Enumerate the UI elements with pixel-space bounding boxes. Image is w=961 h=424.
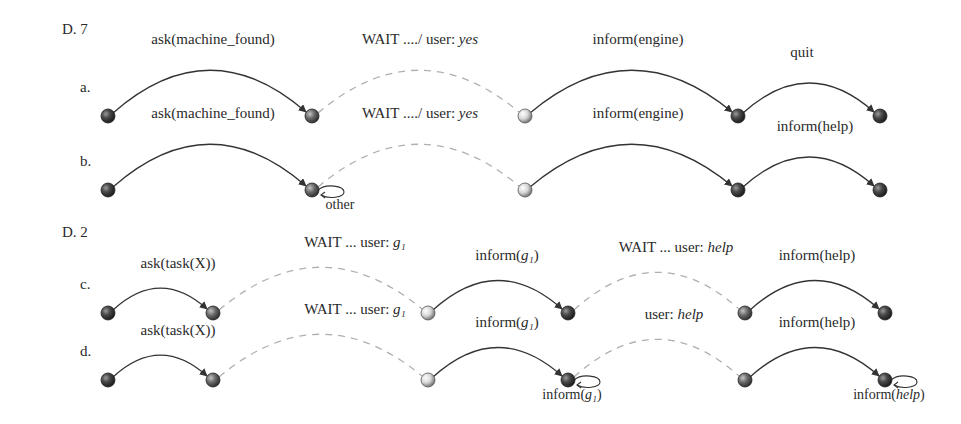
state-node [101,183,115,197]
self-loop-label-math: help [896,387,920,402]
dialogue-state-diagram [0,0,961,424]
state-node [561,373,575,387]
edge-label-tail: ) [534,247,539,263]
edge-label-math: g₁ [521,314,534,330]
transition-arrow [530,144,732,187]
state-node [561,306,575,320]
edge-label: WAIT ... user: g₁ [304,302,406,317]
edge-label-math: g₁ [521,247,534,263]
state-node [873,183,887,197]
edge-label: ask(machine_found) [151,32,274,47]
edge-label: WAIT ..../ user: yes [362,106,478,121]
state-node [101,373,115,387]
edge-label: inform(g₁) [475,315,539,330]
edge-label: inform(help) [779,248,856,263]
state-node [421,306,435,320]
edge-label: WAIT ..../ user: yes [362,32,478,47]
edge-label-text: inform( [475,247,521,263]
edge-label-text: WAIT ..../ user: [362,105,459,121]
edge-label-math: help [678,306,704,322]
edge-label: inform(engine) [593,106,684,121]
self-loop-label: inform(g₁) [542,388,601,402]
state-node [873,109,887,123]
edge-label: inform(engine) [593,32,684,47]
state-node [731,109,745,123]
edge-label-math: yes [459,105,478,121]
transition-arrow [113,355,207,377]
state-node [731,183,745,197]
edge-label-text: WAIT ..../ user: [362,31,459,47]
edge-label: WAIT ... user: help [619,240,734,255]
section-title: D. 7 [62,22,88,37]
edge-label: quit [790,45,813,60]
edge-label: inform(help) [777,119,854,134]
state-node [101,306,115,320]
state-node [206,373,220,387]
state-node [518,109,532,123]
transition-arrow [750,280,879,310]
edge-label-math: g₁ [393,301,406,317]
transition-arrow [113,288,207,310]
self-loop-label: inform(help) [853,388,925,402]
row-label: c. [80,277,90,292]
edge-label-math: help [708,239,734,255]
wait-dashed-arc [574,272,739,310]
wait-dashed-arc [574,339,739,377]
row-label: b. [80,154,91,169]
state-node [738,373,752,387]
self-loop-label-text: inform( [542,387,585,402]
edge-label-math: yes [459,31,478,47]
edge-label: user: help [645,307,704,322]
self-loop-label-tail: ) [597,387,602,402]
state-node [421,373,435,387]
self-loop-label-math: g₁ [585,387,597,402]
edge-label-text: WAIT ... user: [619,239,708,255]
state-node [101,109,115,123]
wait-dashed-arc [219,334,422,377]
edge-label-text: inform( [475,314,521,330]
self-loop-label: other [326,198,355,212]
edge-label: WAIT ... user: g₁ [304,235,406,250]
wait-dashed-arc [318,144,519,187]
self-loop-arrowhead-icon [321,192,325,198]
transition-arrow [743,157,874,187]
state-node [878,306,892,320]
transition-arrow [743,83,874,113]
edge-label: ask(machine_found) [151,106,274,121]
state-node [518,183,532,197]
transition-arrow [113,144,306,187]
edge-label-math: g₁ [393,234,406,250]
row-label: d. [80,344,91,359]
edge-label: inform(help) [779,315,856,330]
edge-label-text: WAIT ... user: [304,301,393,317]
self-loop-label-text: inform( [853,387,896,402]
edge-label: ask(task(X)) [141,256,216,271]
edge-label-text: user: [645,306,678,322]
self-loop-label-tail: ) [920,387,925,402]
transition-arrow [433,280,562,310]
edge-label: inform(g₁) [475,248,539,263]
section-title: D. 2 [62,225,88,240]
state-node [305,109,319,123]
state-node [878,373,892,387]
state-node [206,306,220,320]
transition-arrow [433,347,562,377]
state-node [305,183,319,197]
edge-label-text: WAIT ... user: [304,234,393,250]
row-label: a. [80,80,90,95]
edge-label: ask(task(X)) [141,323,216,338]
transition-arrow [750,347,879,377]
edge-label-tail: ) [534,314,539,330]
state-node [738,306,752,320]
